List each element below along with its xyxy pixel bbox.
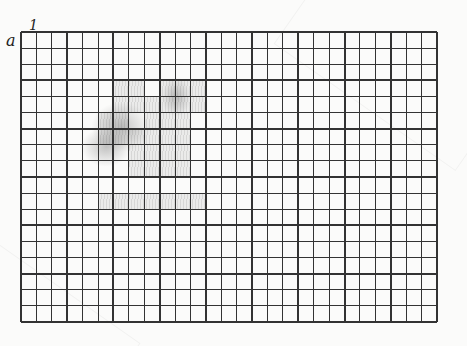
- shaded-cell[interactable]: [190, 193, 205, 209]
- shaded-cell[interactable]: [175, 145, 190, 161]
- shaded-cell[interactable]: [175, 161, 190, 177]
- major-grid-line: [21, 31, 437, 33]
- shaded-cell[interactable]: [160, 129, 175, 145]
- shaded-cell[interactable]: [113, 193, 128, 209]
- grid-line: [21, 112, 437, 113]
- pencil-smudge: [161, 77, 191, 117]
- grid-line: [21, 144, 437, 145]
- shaded-cell[interactable]: [175, 129, 190, 145]
- shaded-cell[interactable]: [113, 80, 128, 96]
- shaded-cell[interactable]: [129, 161, 144, 177]
- grid-line: [21, 48, 437, 49]
- grid-line: [21, 241, 437, 242]
- grid-line: [21, 305, 437, 306]
- shaded-cell[interactable]: [144, 193, 159, 209]
- major-grid-line: [21, 79, 437, 81]
- shaded-cell[interactable]: [160, 193, 175, 209]
- shaded-cell[interactable]: [175, 193, 190, 209]
- grid-line: [21, 209, 437, 210]
- shaded-cell[interactable]: [144, 145, 159, 161]
- row-marker-label: a: [6, 33, 16, 49]
- shaded-cell[interactable]: [160, 145, 175, 161]
- major-grid-line: [21, 176, 437, 178]
- shaded-cell[interactable]: [190, 96, 205, 112]
- shaded-cell[interactable]: [144, 96, 159, 112]
- column-marker-label: 1: [29, 18, 38, 32]
- shaded-cell[interactable]: [190, 80, 205, 96]
- major-grid-line: [21, 128, 437, 130]
- grid-line: [21, 193, 437, 194]
- shaded-cell[interactable]: [144, 161, 159, 177]
- major-grid-line: [21, 224, 437, 226]
- major-grid-line: [21, 321, 437, 323]
- drawing-grid[interactable]: [21, 32, 437, 322]
- shaded-cell[interactable]: [129, 193, 144, 209]
- shaded-cell[interactable]: [129, 80, 144, 96]
- grid-line: [21, 64, 437, 65]
- shaded-cell[interactable]: [160, 161, 175, 177]
- grid-line: [21, 96, 437, 97]
- grid-line: [21, 160, 437, 161]
- major-grid-line: [21, 273, 437, 275]
- grid-line: [21, 289, 437, 290]
- shaded-cell[interactable]: [98, 193, 113, 209]
- grid-line: [21, 257, 437, 258]
